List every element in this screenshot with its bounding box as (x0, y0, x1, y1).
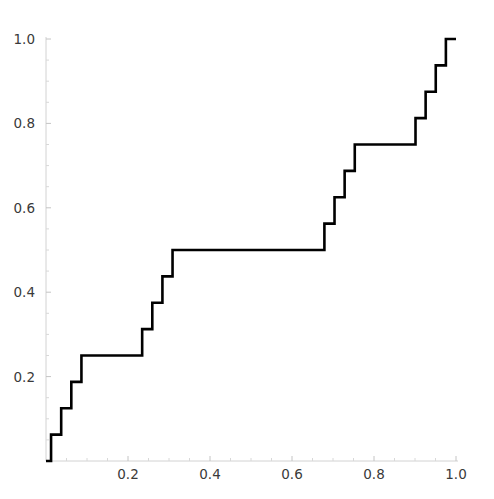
y-tick-label: 0.8 (14, 115, 35, 131)
cantor-function-plot: 0.20.40.60.81.0 0.20.40.60.81.0 (0, 0, 494, 499)
x-tick-label: 0.2 (117, 466, 138, 482)
cantor-function-curve (46, 39, 456, 461)
y-tick-label: 1.0 (14, 31, 35, 47)
x-tick-label: 0.4 (199, 466, 220, 482)
x-axis-tick-labels: 0.20.40.60.81.0 (117, 466, 466, 482)
plot-canvas: 0.20.40.60.81.0 0.20.40.60.81.0 (0, 0, 494, 499)
y-tick-label: 0.4 (14, 284, 35, 300)
x-tick-label: 0.8 (363, 466, 384, 482)
x-tick-label: 1.0 (445, 466, 466, 482)
y-tick-label: 0.6 (14, 200, 35, 216)
y-axis-tick-labels: 0.20.40.60.81.0 (14, 31, 35, 385)
x-tick-label: 0.6 (281, 466, 302, 482)
y-tick-label: 0.2 (14, 369, 35, 385)
